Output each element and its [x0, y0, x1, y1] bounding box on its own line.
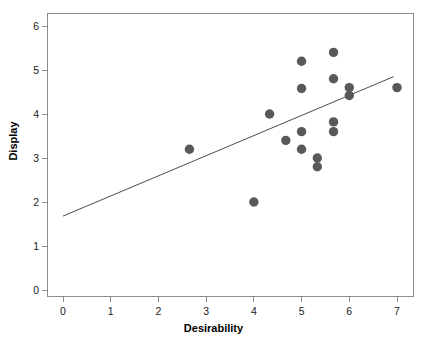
x-tick-mark	[397, 297, 398, 302]
x-tick-mark	[349, 297, 350, 302]
y-tick-mark	[42, 70, 47, 71]
x-tick-mark	[63, 297, 64, 302]
x-axis-label: Desirability	[0, 322, 427, 334]
x-tick-label: 5	[299, 305, 305, 317]
plot-area-frame	[47, 13, 414, 297]
y-tick-mark	[42, 202, 47, 203]
y-tick-label: 0	[17, 284, 39, 296]
x-tick-label: 2	[156, 305, 162, 317]
y-tick-mark	[42, 290, 47, 291]
x-tick-label: 3	[203, 305, 209, 317]
y-tick-label: 3	[17, 152, 39, 164]
x-tick-label: 0	[60, 305, 66, 317]
y-tick-mark	[42, 114, 47, 115]
scatter-plot-figure: 012345670123456 Desirability Display	[0, 0, 427, 348]
x-tick-mark	[158, 297, 159, 302]
x-tick-mark	[301, 297, 302, 302]
y-axis-label: Display	[7, 111, 19, 171]
x-tick-label: 1	[108, 305, 114, 317]
x-tick-mark	[110, 297, 111, 302]
y-tick-mark	[42, 246, 47, 247]
x-tick-mark	[206, 297, 207, 302]
x-tick-mark	[253, 297, 254, 302]
x-tick-label: 7	[394, 305, 400, 317]
y-tick-mark	[42, 158, 47, 159]
y-tick-label: 1	[17, 240, 39, 252]
x-tick-label: 6	[346, 305, 352, 317]
y-tick-label: 2	[17, 196, 39, 208]
y-tick-mark	[42, 26, 47, 27]
y-tick-label: 5	[17, 64, 39, 76]
y-tick-label: 6	[17, 20, 39, 32]
y-tick-label: 4	[17, 108, 39, 120]
x-tick-label: 4	[251, 305, 257, 317]
